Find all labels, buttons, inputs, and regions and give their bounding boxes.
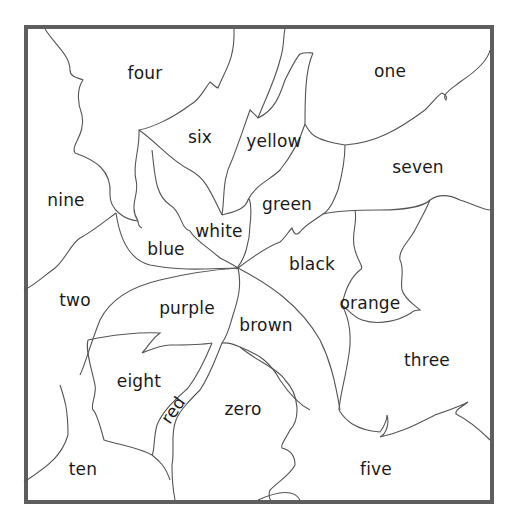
region-label-nine[interactable]: nine [47,190,85,210]
region-label-purple[interactable]: purple [159,298,215,318]
region-label-two[interactable]: two [59,290,91,310]
region-label-yellow[interactable]: yellow [246,131,301,151]
region-outlines [0,0,517,530]
region-label-orange[interactable]: orange [339,293,400,313]
region-label-six[interactable]: six [188,127,212,147]
region-label-five[interactable]: five [360,459,392,479]
region-label-blue[interactable]: blue [147,239,185,259]
region-label-brown[interactable]: brown [239,315,293,335]
region-label-one[interactable]: one [374,61,406,81]
region-label-white[interactable]: white [195,221,243,241]
region-label-black[interactable]: black [289,254,335,274]
region-label-eight[interactable]: eight [117,371,161,391]
region-label-seven[interactable]: seven [392,157,444,177]
region-label-zero[interactable]: zero [224,399,261,419]
region-label-green[interactable]: green [262,194,312,214]
region-label-three[interactable]: three [404,350,450,370]
region-label-four[interactable]: four [128,63,163,83]
region-label-ten[interactable]: ten [69,459,98,479]
